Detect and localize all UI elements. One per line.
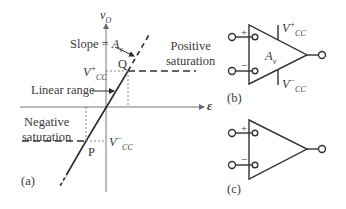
x-axis-label: ε <box>207 100 212 113</box>
panel-a-label: (a) <box>21 175 35 188</box>
vcc-minus-label-a: V−CC <box>109 136 133 149</box>
plus-sign-b: + <box>241 27 247 38</box>
vcc-minus-label-b: V−CC <box>282 78 306 91</box>
transfer-line <box>58 33 150 189</box>
point-p-label: P <box>88 146 95 159</box>
minus-sign-c: − <box>241 154 247 165</box>
point-q-label: Q <box>118 58 127 71</box>
vcc-plus-label-b: V+CC <box>282 22 306 35</box>
gain-label-b: Av <box>265 50 276 63</box>
slope-label: Slope = Av <box>70 38 123 51</box>
minus-sign-b: − <box>241 60 247 71</box>
negative-saturation-label: Negativesaturation <box>22 116 71 143</box>
y-axis-label: vO <box>100 9 111 22</box>
panel-b-label: (b) <box>227 92 242 105</box>
plus-sign-c: + <box>241 123 247 134</box>
vcc-plus-label-a: V+CC <box>83 66 107 79</box>
linear-range-label: Linear range <box>31 84 95 97</box>
positive-saturation-label: Positivesaturation <box>166 40 215 67</box>
panel-c-label: (c) <box>227 183 241 196</box>
